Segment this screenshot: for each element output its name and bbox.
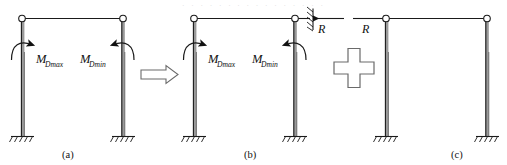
panel-b-joint-left-pin-icon (191, 15, 198, 22)
panel-a-label-m-dmin: M Dmin (79, 52, 106, 69)
panel-c-left-column (385, 19, 388, 137)
panel-c-caption: (c) (451, 149, 463, 161)
panel-c-right-column (486, 19, 489, 137)
panel-b-label-m-dmin: M Dmin (251, 52, 278, 69)
panel-a-caption: (a) (62, 149, 74, 161)
panel-a-right-column (122, 19, 125, 137)
panel-c-support-left-fixed-icon (374, 137, 399, 143)
panel-a-joint-right-pin-icon (120, 15, 127, 22)
panel-b-caption: (b) (244, 149, 257, 161)
panel-a-label-m-dmin-sub: Dmin (88, 60, 106, 69)
panel-c-support-right-fixed-icon (475, 137, 500, 143)
panel-c-label-r: R (361, 22, 370, 36)
panel-a: M Dmax M Dmin (a) (10, 15, 136, 161)
panel-b-joint-right-pin-icon (292, 15, 299, 22)
panel-c-joint-left-pin-icon (383, 15, 390, 22)
figure-canvas: M Dmax M Dmin (a) (0, 0, 507, 165)
panel-b-left-column (193, 19, 196, 137)
frame-decomposition-figure: M Dmax M Dmin (a) (0, 0, 507, 165)
panel-b: M Dmax M Dmin R (182, 7, 345, 161)
panel-c: R (c) (353, 15, 499, 161)
panel-a-support-right-fixed-icon (111, 137, 136, 143)
panel-b-support-left-fixed-icon (182, 137, 207, 143)
panel-b-label-m-dmin-sub: Dmin (260, 60, 278, 69)
operator-implies-arrow-icon (141, 66, 178, 84)
panel-c-joint-right-pin-icon (484, 15, 491, 22)
panel-a-label-m-dmax-sub: Dmax (44, 60, 64, 69)
panel-b-label-r: R (317, 22, 326, 36)
panel-b-label-m-dmax-sub: Dmax (216, 60, 236, 69)
panel-a-joint-left-pin-icon (19, 15, 26, 22)
panel-b-label-m-dmax: M Dmax (207, 52, 236, 69)
panel-a-left-column (21, 19, 24, 137)
operator-plus-sign-icon (334, 49, 374, 88)
panel-a-label-m-dmax: M Dmax (35, 52, 64, 69)
panel-b-support-right-fixed-icon (283, 137, 308, 143)
panel-b-right-column (294, 19, 297, 137)
panel-a-support-left-fixed-icon (10, 137, 35, 143)
